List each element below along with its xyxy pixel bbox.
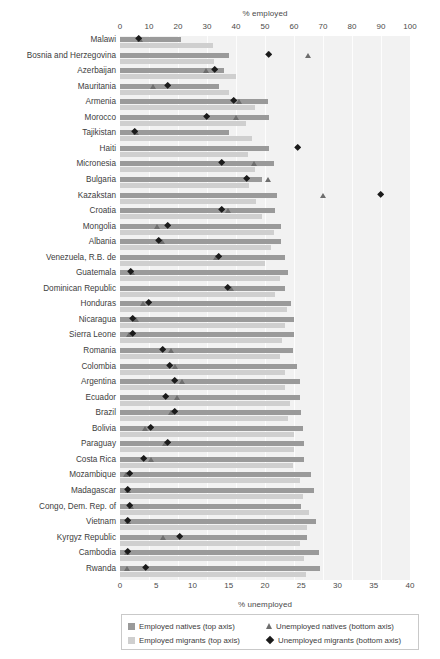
chart-row (120, 534, 410, 551)
bar-employed-migrants (120, 121, 246, 126)
chart-row (120, 565, 410, 582)
bar-employed-natives (120, 239, 281, 244)
bar-employed-migrants (120, 74, 236, 79)
bar-employed-migrants (120, 43, 213, 48)
bar-employed-natives (120, 379, 300, 384)
marker-unemployed-natives (265, 177, 271, 182)
marker-unemployed-natives (168, 348, 174, 353)
top-axis-tick-50: 50 (261, 22, 270, 31)
marker-unemployed-natives (225, 208, 231, 213)
bar-employed-migrants (120, 416, 288, 421)
legend-item-employed-natives: Employed natives (top axis) (128, 622, 266, 631)
category-label-kyrgyz-republic: Kyrgyz Republic (0, 533, 116, 543)
category-label-rwanda: Rwanda (0, 564, 116, 574)
category-label-dominican-republic: Dominican Republic (0, 284, 116, 294)
top-axis-tick-10: 10 (145, 22, 154, 31)
bar-employed-migrants (120, 370, 285, 375)
top-axis-tick-80: 80 (348, 22, 357, 31)
chart-row (120, 471, 410, 488)
bar-employed-migrants (120, 323, 285, 328)
chart-row (120, 363, 410, 380)
chart-row (120, 36, 410, 53)
chart-row (120, 67, 410, 84)
bar-employed-migrants (120, 152, 248, 157)
employed-natives-swatch-icon (128, 623, 135, 630)
chart-row (120, 52, 410, 69)
chart-row (120, 254, 410, 271)
bar-employed-migrants (120, 385, 285, 390)
category-label-venezuela-r-b-de: Venezuela, R.B. de (0, 253, 116, 263)
bottom-axis-tick-0: 0 (118, 581, 122, 590)
bar-employed-natives (120, 99, 268, 104)
category-label-mauritania: Mauritania (0, 82, 116, 92)
category-label-paraguay: Paraguay (0, 439, 116, 449)
bar-employed-natives (120, 177, 262, 182)
chart-row (120, 503, 410, 520)
bar-employed-migrants (120, 136, 252, 141)
chart-row (120, 394, 410, 411)
chart-row (120, 518, 410, 535)
bar-employed-migrants (120, 463, 293, 468)
bottom-axis-tick-labels: 0510152025303540 (0, 581, 440, 593)
bar-employed-natives (120, 364, 297, 369)
bar-employed-natives (120, 395, 300, 400)
category-label-romania: Romania (0, 346, 116, 356)
bar-employed-natives (120, 550, 319, 555)
bar-employed-migrants (120, 230, 274, 235)
category-label-honduras: Honduras (0, 299, 116, 309)
marker-unemployed-migrants (265, 50, 273, 58)
legend-label-employed-natives: Employed natives (top axis) (139, 622, 235, 631)
top-axis-tick-20: 20 (174, 22, 183, 31)
category-label-mozambique: Mozambique (0, 470, 116, 480)
chart-row (120, 160, 410, 177)
legend-item-employed-migrants: Employed migrants (top axis) (128, 636, 266, 645)
bottom-axis-tick-30: 30 (333, 581, 342, 590)
bar-employed-migrants (120, 276, 280, 281)
marker-unemployed-natives (154, 224, 160, 229)
chart-row (120, 378, 410, 395)
bar-employed-migrants (120, 572, 306, 577)
bar-employed-natives (120, 535, 307, 540)
marker-unemployed-natives (203, 68, 209, 73)
legend-item-unemployed-natives: Unemployed natives (bottom axis) (266, 622, 394, 631)
category-label-colombia: Colombia (0, 362, 116, 372)
chart-row (120, 98, 410, 115)
bar-employed-natives (120, 146, 269, 151)
category-label-vietnam: Vietnam (0, 517, 116, 527)
legend-item-unemployed-migrants: Unemployed migrants (bottom axis) (266, 636, 401, 645)
bar-employed-migrants (120, 307, 287, 312)
bar-employed-natives (120, 286, 285, 291)
top-axis-tick-labels: 0102030405060708090100 (0, 22, 440, 34)
category-label-brazil: Brazil (0, 408, 116, 418)
bar-employed-natives (120, 488, 314, 493)
bottom-axis-tick-10: 10 (188, 581, 197, 590)
chart-row (120, 456, 410, 473)
chart-row (120, 192, 410, 209)
bar-employed-natives (120, 348, 293, 353)
top-axis-tick-30: 30 (203, 22, 212, 31)
bar-employed-natives (120, 504, 301, 509)
bar-employed-migrants (120, 199, 256, 204)
unemployed-migrants-diamond-icon (266, 636, 274, 644)
marker-unemployed-natives (251, 161, 257, 166)
marker-unemployed-natives (160, 535, 166, 540)
bar-employed-natives (120, 37, 181, 42)
bar-employed-natives (120, 441, 304, 446)
bar-employed-migrants (120, 541, 300, 546)
chart-row (120, 83, 410, 100)
chart-row (120, 129, 410, 146)
category-label-guatemala: Guatemala (0, 268, 116, 278)
employed-migrants-swatch-icon (128, 637, 135, 644)
legend-label-employed-migrants: Employed migrants (top axis) (139, 636, 240, 645)
bar-employed-migrants (120, 167, 255, 172)
category-label-costa-rica: Costa Rica (0, 455, 116, 465)
chart-row (120, 409, 410, 426)
category-label-tajikistan: Tajikistan (0, 128, 116, 138)
category-label-cambodia: Cambodia (0, 548, 116, 558)
plot-area (120, 36, 410, 580)
bar-employed-natives (120, 208, 275, 213)
category-label-armenia: Armenia (0, 97, 116, 107)
bar-employed-migrants (120, 354, 280, 359)
bar-employed-migrants (120, 261, 265, 266)
bar-employed-migrants (120, 525, 307, 530)
